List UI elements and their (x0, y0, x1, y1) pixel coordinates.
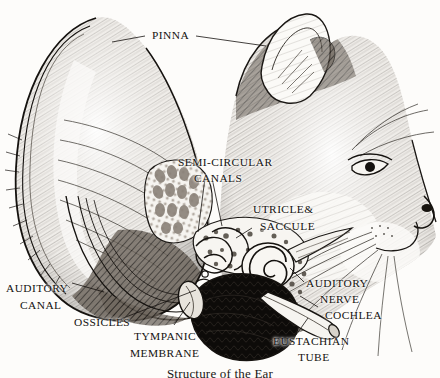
label-eustachian-tube-line1: EUSTACHIAN (273, 335, 349, 349)
figure-caption: Structure of the Ear (0, 366, 440, 378)
label-eustachian-tube-line2: TUBE (298, 351, 330, 365)
label-tympanic-membrane-line2: MEMBRANE (130, 347, 199, 361)
illustration-figure: PINNA SEMI-CIRCULAR CANALS UTRICLE& SACC… (0, 0, 440, 378)
label-semicircular-canals-line2: CANALS (194, 172, 242, 186)
label-auditory-nerve-line2: NERVE (320, 293, 359, 307)
label-utricle: UTRICLE& (253, 203, 314, 217)
label-auditory-canal-line1: AUDITORY (6, 282, 68, 296)
label-auditory-nerve-line1: AUDITORY (306, 277, 368, 291)
label-semicircular-canals-line1: SEMI-CIRCULAR (178, 156, 272, 170)
label-ossicles: OSSICLES (74, 316, 130, 330)
label-pinna: PINNA (152, 29, 189, 43)
label-cochlea: COCHLEA (325, 309, 382, 323)
label-tympanic-membrane-line1: TYMPANIC (134, 330, 196, 344)
label-auditory-canal-line2: CANAL (20, 299, 61, 313)
label-saccule: SACCULE (260, 220, 315, 234)
nose-leather (422, 204, 433, 212)
